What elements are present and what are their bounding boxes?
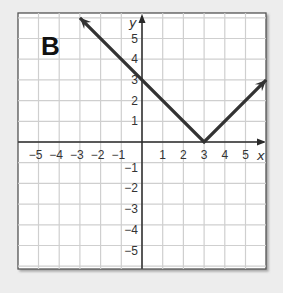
y-tick-label: 4 [131,52,138,66]
x-tick-label: 3 [201,148,208,162]
y-tick-label: 5 [131,32,138,46]
coordinate-plane: −5−4−3−2−112345−5−4−3−2−112345 B x y [0,0,283,293]
x-tick-label: 4 [221,148,228,162]
x-tick-label: −4 [49,148,63,162]
graph-panel: −5−4−3−2−112345−5−4−3−2−112345 B x y [0,0,283,293]
x-tick-label: 5 [242,148,249,162]
y-tick-label: −3 [124,202,138,216]
y-tick-label: 2 [131,94,138,108]
y-tick-label: −5 [124,244,138,258]
x-tick-label: 1 [159,148,166,162]
x-tick-label: −5 [29,148,43,162]
y-tick-label: −4 [124,223,138,237]
x-axis-label: x [256,148,265,163]
y-tick-label: 1 [131,114,138,128]
x-tick-label: −3 [70,148,84,162]
y-tick-label: −1 [124,161,138,175]
y-axis-label: y [128,15,137,30]
panel-label: B [41,31,60,61]
x-tick-label: 2 [180,148,187,162]
x-tick-label: −2 [91,148,105,162]
y-tick-label: −2 [124,181,138,195]
